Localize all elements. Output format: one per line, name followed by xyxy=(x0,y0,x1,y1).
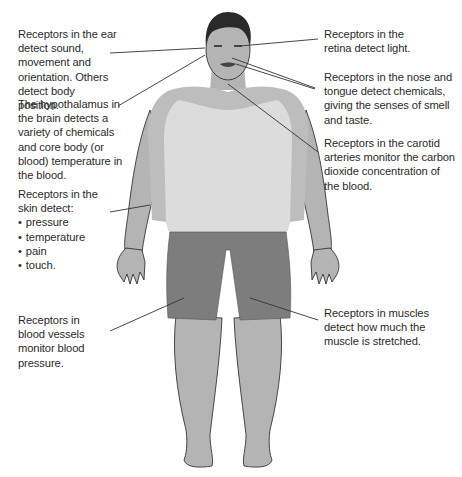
leader-retina xyxy=(240,39,318,46)
shirt-front xyxy=(164,100,292,235)
leader-tongue xyxy=(236,64,315,89)
left-hand xyxy=(117,248,145,284)
label-nose-tongue: Receptors in the nose and tongue detect … xyxy=(324,70,454,127)
label-muscles: Receptors in muscles detect how much the… xyxy=(324,306,434,349)
skin-item: pain xyxy=(18,244,118,258)
right-leg xyxy=(234,315,282,467)
left-leg xyxy=(174,315,222,467)
skin-item: pressure xyxy=(18,215,118,229)
label-blood-vessels: Receptors in blood vessels monitor blood… xyxy=(18,313,108,370)
right-hand xyxy=(311,248,339,284)
label-hypothalamus: The hypothalamus in the brain detects a … xyxy=(18,97,130,182)
label-skin-intro: Receptors in the skin detect: xyxy=(18,187,118,215)
shorts xyxy=(167,232,291,320)
label-skin: Receptors in the skin detect: pressure t… xyxy=(18,187,118,272)
leader-ear xyxy=(110,48,205,53)
label-retina: Receptors in the retina detect light. xyxy=(324,27,424,55)
skin-item: temperature xyxy=(18,230,118,244)
label-carotid: Receptors in the carotid arteries monito… xyxy=(324,136,458,193)
skin-item: touch. xyxy=(18,258,118,272)
skin-list: pressure temperature pain touch. xyxy=(18,215,118,272)
